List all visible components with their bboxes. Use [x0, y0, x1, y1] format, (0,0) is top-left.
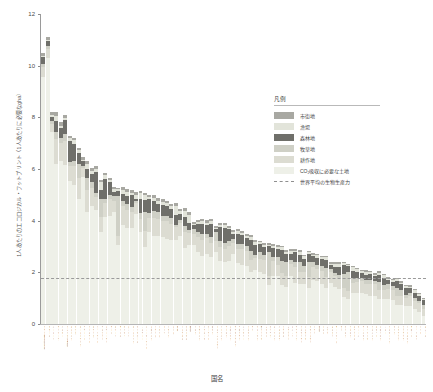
bar-segment — [280, 261, 284, 273]
bar-segment — [223, 262, 227, 324]
bar-segment — [152, 218, 156, 237]
legend-swatch — [274, 167, 294, 174]
bar-segment — [258, 244, 262, 251]
bar-segment — [165, 239, 169, 324]
bar-segment — [169, 240, 173, 324]
legend: 凡例 市街地漁場森林地牧草地耕作地CO₂吸収に必要な土地世界平均の生物生産力 — [274, 95, 424, 187]
bar-segment — [320, 284, 324, 324]
bar-segment — [121, 206, 125, 224]
bar-segment — [99, 217, 103, 233]
bar-segment — [245, 251, 249, 266]
bar-segment — [139, 199, 143, 213]
legend-item[interactable]: 世界平均の生物生産力 — [274, 176, 424, 187]
bar-segment — [161, 237, 165, 324]
bar-segment — [59, 161, 63, 324]
bar-segment — [77, 199, 81, 324]
bar-segment — [395, 305, 399, 324]
bar-segment — [240, 235, 244, 244]
bar-segment — [46, 58, 50, 324]
bar-segment — [293, 267, 297, 283]
bar-segment — [90, 206, 94, 324]
bar-segment — [187, 233, 191, 245]
bar-segment — [404, 306, 408, 324]
bar-segment — [174, 206, 178, 215]
bar-segment — [395, 281, 399, 288]
bar-segment — [130, 228, 134, 324]
bar-segment — [85, 190, 89, 212]
bar-segment — [373, 296, 377, 324]
bar-segment — [315, 281, 319, 324]
y-tick-label: 0 — [23, 321, 35, 327]
bar-segment — [196, 237, 200, 251]
bar-segment — [103, 203, 107, 216]
bar-segment — [382, 290, 386, 300]
legend-label: 市街地 — [300, 112, 315, 119]
bar-segment — [399, 305, 403, 324]
bar-segment — [41, 67, 45, 77]
bar-segment — [267, 285, 271, 324]
bar-segment — [130, 195, 134, 207]
bar-segment — [68, 166, 72, 180]
legend-item[interactable]: CO₂吸収に必要な土地 — [274, 165, 424, 176]
y-tick-label: 10 — [23, 63, 35, 69]
bar-segment — [85, 212, 89, 324]
bar-segment — [360, 293, 364, 324]
bar-segment — [391, 300, 395, 324]
bar-segment — [178, 236, 182, 324]
bar-segment — [249, 240, 253, 251]
bar-segment — [377, 282, 381, 290]
bar-segment — [240, 265, 244, 324]
bar-segment — [99, 182, 103, 190]
bar-segment — [99, 199, 103, 217]
x-axis-line — [40, 324, 426, 325]
bar-segment — [271, 248, 275, 257]
bar-segment — [258, 272, 262, 324]
bar-segment — [143, 212, 147, 231]
legend-label: 森林地 — [300, 134, 315, 141]
bar-segment — [72, 166, 76, 184]
bar-segment — [90, 188, 94, 206]
ecological-footprint-chart: 1人あたりのエコロジカル・フットプリント（1人あたりに必要なgha） 02468… — [0, 0, 433, 392]
bar-segment — [364, 294, 368, 324]
bar-segment — [417, 303, 421, 312]
legend-item[interactable]: 市街地 — [274, 110, 424, 121]
bar-segment — [156, 204, 160, 212]
bar-segment — [112, 201, 116, 211]
bar-segment — [50, 124, 54, 132]
legend-label: CO₂吸収に必要な土地 — [300, 167, 349, 174]
bar-segment — [298, 284, 302, 324]
bar-segment — [276, 249, 280, 257]
bar-segment — [63, 120, 67, 134]
bar-segment — [227, 246, 231, 261]
bar-segment — [130, 212, 134, 228]
legend-item[interactable]: 漁場 — [274, 121, 424, 132]
bar-segment — [116, 245, 120, 324]
bar-segment — [72, 185, 76, 325]
bar-segment — [258, 259, 262, 272]
bar-segment — [342, 274, 346, 288]
bar-segment — [404, 298, 408, 307]
bar-segment — [413, 309, 417, 324]
bar-segment — [218, 247, 222, 261]
bar-segment — [377, 290, 381, 300]
bar-segment — [284, 287, 288, 324]
y-axis-title: 1人あたりのエコロジカル・フットプリント（1人あたりに必要なgha） — [15, 44, 22, 304]
bar-segment — [368, 296, 372, 324]
bar-segment — [54, 132, 58, 140]
bar-segment — [139, 219, 143, 232]
legend-item[interactable]: 森林地 — [274, 132, 424, 143]
bar-segment — [289, 276, 293, 324]
legend-swatch — [274, 145, 294, 152]
bar-segment — [404, 288, 408, 295]
bar-segment — [200, 256, 204, 324]
legend-item[interactable]: 耕作地 — [274, 154, 424, 165]
bar-segment — [223, 249, 227, 262]
world-biocapacity-reference-line — [41, 278, 426, 279]
bar-segment — [196, 252, 200, 324]
bar-segment — [307, 288, 311, 324]
bar-segment — [298, 255, 302, 262]
legend-item[interactable]: 牧草地 — [274, 143, 424, 154]
bar-segment — [54, 164, 58, 324]
bar-segment — [360, 281, 364, 293]
bar-segment — [324, 288, 328, 324]
